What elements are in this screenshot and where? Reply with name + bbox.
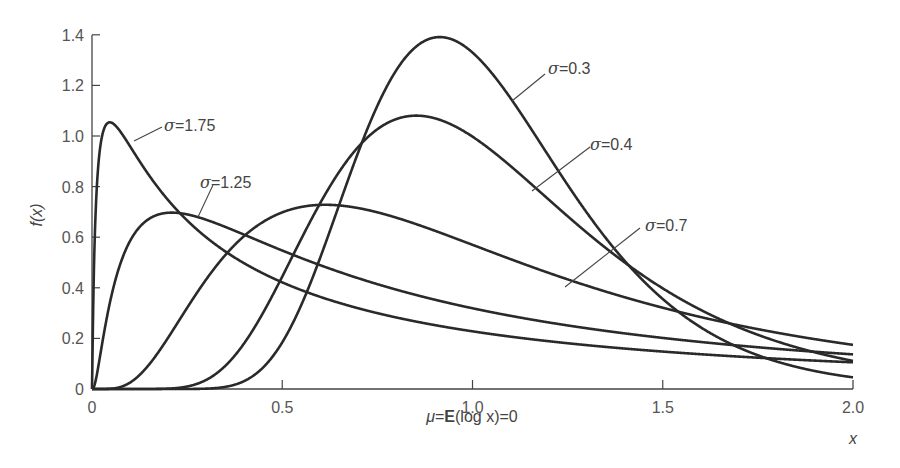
leader-line (134, 127, 162, 141)
y-tick-label: 0.4 (62, 280, 84, 297)
x-tick-label: 2.0 (842, 399, 864, 416)
sigma-annotation: σ=1.75 (164, 116, 216, 135)
lognormal-density-chart: 00.20.40.60.81.01.21.4 00.51.01.52.0 σ=0… (0, 0, 900, 468)
y-tick-label: 1.4 (62, 27, 84, 44)
x-tick-label: 0.5 (271, 399, 293, 416)
sigma-annotation: σ=0.4 (590, 135, 633, 154)
mu-caption: μ=E(log x)=0 (425, 408, 518, 425)
caption-eq: = (435, 408, 444, 425)
curve-sigma-0_3 (92, 37, 853, 389)
y-tick-label: 0 (75, 381, 84, 398)
caption-mu: μ (425, 408, 435, 425)
curve-sigma-0_7 (92, 205, 853, 389)
leader-line (565, 228, 640, 287)
sigma-annotation: σ=1.25 (200, 173, 252, 192)
leader-line (512, 74, 545, 101)
y-tick-label: 0.8 (62, 179, 84, 196)
curve-sigma-1_25 (92, 213, 853, 389)
leader-line (532, 147, 590, 191)
y-tick-label: 0.6 (62, 229, 84, 246)
y-axis-label: f(x) (28, 203, 45, 226)
y-tick-label: 1.0 (62, 128, 84, 145)
annotations: σ=0.3σ=0.4σ=0.7σ=1.25σ=1.75 (164, 59, 688, 235)
caption-E: E (444, 408, 455, 425)
density-curves (92, 37, 853, 389)
axes (92, 35, 853, 389)
sigma-annotation: σ=0.7 (645, 216, 688, 235)
y-tick-label: 1.2 (62, 77, 84, 94)
y-ticks: 00.20.40.60.81.01.21.4 (62, 27, 100, 398)
y-tick-label: 0.2 (62, 330, 84, 347)
x-axis-label: x (848, 430, 858, 447)
x-tick-label: 0 (88, 399, 97, 416)
x-tick-label: 1.5 (652, 399, 674, 416)
caption-rest: (log x)=0 (455, 408, 518, 425)
sigma-annotation: σ=0.3 (548, 59, 591, 78)
